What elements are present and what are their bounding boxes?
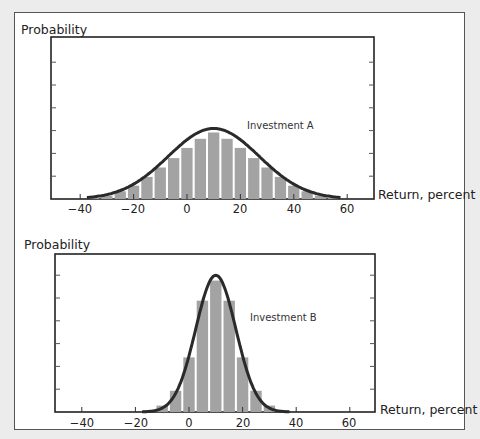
histogram-bar: [275, 177, 286, 199]
histogram-bar: [235, 148, 246, 199]
x-tick-labels-a: −40 −20 0 20 40 60: [68, 202, 354, 216]
histogram-bar: [210, 281, 221, 412]
tick-label: 60: [342, 416, 357, 430]
x-tick-labels-b: −40 −20 0 20 40 60: [70, 416, 356, 430]
histogram-bar: [248, 158, 259, 199]
tick-label: 40: [287, 202, 302, 216]
tick-label: 0: [185, 416, 192, 430]
chart-investment-a: Probability Investment A Return, percent…: [21, 22, 475, 216]
tick-label: −40: [68, 202, 92, 216]
annotation-investment-a: Investment A: [247, 120, 314, 131]
histogram-bar: [195, 139, 206, 199]
histogram-bar: [208, 133, 219, 200]
tick-label: 20: [236, 416, 251, 430]
chart-investment-b: Probability Investment B Return, percent…: [24, 237, 477, 430]
tick-label: −20: [121, 202, 145, 216]
tick-label: 0: [183, 202, 190, 216]
tick-label: 40: [289, 416, 304, 430]
annotation-investment-b: Investment B: [250, 312, 317, 323]
tick-label: −40: [70, 416, 94, 430]
x-axis-label-b: Return, percent: [380, 402, 477, 417]
y-axis-label-b: Probability: [24, 237, 91, 252]
histogram-bar: [141, 177, 152, 199]
figure-svg: Probability Investment A Return, percent…: [0, 0, 480, 439]
tick-label: 20: [233, 202, 248, 216]
x-axis-label-a: Return, percent: [378, 187, 475, 202]
tick-label: 60: [340, 202, 355, 216]
histogram-bar: [181, 148, 192, 199]
histogram-bar: [261, 168, 272, 200]
tick-label: −20: [124, 416, 148, 430]
histogram-bar: [155, 168, 166, 200]
y-axis-label-a: Probability: [21, 22, 88, 37]
histogram-bar: [221, 139, 232, 199]
histogram-bar: [168, 158, 179, 199]
